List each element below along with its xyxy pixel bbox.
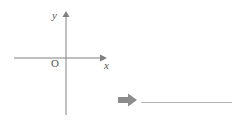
axes-drawing <box>0 0 120 128</box>
coordinate-axes-figure: y x O <box>0 0 120 128</box>
worksheet-canvas: y x O <box>0 0 244 128</box>
origin-label: O <box>51 58 59 69</box>
y-axis-label: y <box>52 10 57 21</box>
answer-blank-line[interactable] <box>141 102 232 103</box>
x-axis-label: x <box>104 60 109 71</box>
right-block-arrow-icon <box>118 92 138 108</box>
y-axis-arrowhead-icon <box>63 11 70 17</box>
answer-row <box>118 88 238 114</box>
